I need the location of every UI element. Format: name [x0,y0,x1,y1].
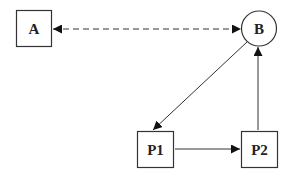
node-a: A [17,11,52,47]
node-p1-label: P1 [147,142,164,158]
node-p1: P1 [138,132,174,168]
node-b: B [242,11,277,46]
node-p2-label: P2 [251,142,268,158]
node-b-label: B [254,21,264,37]
node-p2: P2 [242,132,278,168]
edge-b-p1 [153,42,247,130]
diagram-canvas: A B P1 P2 [0,0,293,172]
node-a-label: A [29,21,40,37]
